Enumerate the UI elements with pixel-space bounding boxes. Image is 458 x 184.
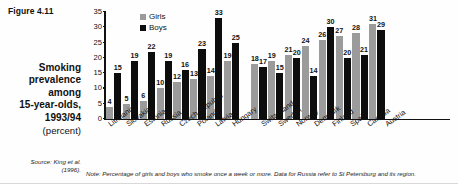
bar-value-label: 20 <box>343 49 351 56</box>
bar-value-label: 20 <box>293 49 301 56</box>
bar-value-label: 30 <box>326 18 334 25</box>
figure-units: (percent) <box>3 124 81 137</box>
bar-value-label: 24 <box>301 37 309 44</box>
figure-title-line-4: 15-year-olds, <box>19 99 81 110</box>
bar-group: 3129 <box>369 12 384 119</box>
bar-girls-finland: 26 <box>319 40 326 119</box>
bar-value-label: 15 <box>276 64 284 71</box>
figure-title-line-1: Smoking <box>39 62 81 73</box>
bar-value-label: 33 <box>215 9 223 16</box>
bar-groups: 4155196221019121613231433192518171915212… <box>106 12 458 119</box>
bar-value-label: 28 <box>352 24 360 31</box>
bar-group: 415 <box>106 12 121 119</box>
bar-value-label: 29 <box>377 21 385 28</box>
bar-boys-hungary: 25 <box>232 43 239 119</box>
figure-panel: Figure 4.11 Smoking prevalence among 15-… <box>0 0 458 184</box>
bar-group: 622 <box>140 12 155 119</box>
bar-girls-canada: 28 <box>352 33 359 119</box>
y-tick-0: 0 <box>86 115 102 123</box>
y-tick-15: 15 <box>86 69 102 77</box>
bar-boys-austria: 29 <box>377 30 384 119</box>
y-tick-30: 30 <box>86 23 102 31</box>
bar-value-label: 31 <box>369 15 377 22</box>
y-tick-10: 10 <box>86 84 102 92</box>
bar-value-label: 14 <box>310 67 318 74</box>
bar-boys-czech-republic: 16 <box>182 70 189 119</box>
figure-note: Note: Percentage of girls and boys who s… <box>86 170 454 177</box>
bar-group: 2630 <box>319 12 334 119</box>
bar-group: 2720 <box>336 12 351 119</box>
bar-group: 1915 <box>268 12 283 119</box>
bar-value-label: 23 <box>198 40 206 47</box>
bar-girls-denmark: 24 <box>302 46 309 119</box>
bar-chart: 05101520253035 Girls Boys 41551962210191… <box>86 0 458 184</box>
bar-value-label: 6 <box>141 92 145 99</box>
figure-note-text: Note: Percentage of girls and boys who s… <box>86 170 416 177</box>
figure-title-line-3: among <box>48 87 81 98</box>
bottom-divider <box>0 183 458 184</box>
bar-value-label: 19 <box>268 52 276 59</box>
bar-boys-switzerland: 17 <box>259 67 266 119</box>
bar-value-label: 19 <box>224 52 232 59</box>
bar-group: 1019 <box>157 12 172 119</box>
bar-value-label: 18 <box>251 55 259 62</box>
bar-value-label: 22 <box>147 43 155 50</box>
bar-boys-canada: 21 <box>361 55 368 119</box>
bar-value-label: 14 <box>207 67 215 74</box>
y-tick-20: 20 <box>86 54 102 62</box>
caption-column: Figure 4.11 Smoking prevalence among 15-… <box>0 0 86 184</box>
bar-value-label: 19 <box>131 52 139 59</box>
bar-group: 1216 <box>173 12 188 119</box>
figure-title-line-5: 1993/94 <box>45 112 81 123</box>
bar-value-label: 13 <box>190 70 198 77</box>
bar-value-label: 25 <box>232 34 240 41</box>
bar-girls-austria: 31 <box>369 24 376 119</box>
bar-group: 1925 <box>224 12 239 119</box>
figure-source: Source: King et al. (1996). <box>3 158 81 173</box>
bar-value-label: 19 <box>164 52 172 59</box>
bar-value-label: 17 <box>259 58 267 65</box>
bar-value-label: 10 <box>156 79 164 86</box>
figure-title: Smoking prevalence among 15-year-olds, 1… <box>3 62 81 137</box>
bar-value-label: 4 <box>108 98 112 105</box>
bar-value-label: 16 <box>181 61 189 68</box>
bar-group: 1817 <box>251 12 266 119</box>
bar-group: 2414 <box>302 12 317 119</box>
y-tick-25: 25 <box>86 39 102 47</box>
figure-source-line-1: Source: King et al. <box>30 158 81 165</box>
bar-value-label: 21 <box>285 46 293 53</box>
bar-value-label: 21 <box>360 46 368 53</box>
bar-value-label: 5 <box>124 95 128 102</box>
y-tick-35: 35 <box>86 8 102 16</box>
bar-value-label: 26 <box>318 31 326 38</box>
bar-value-label: 27 <box>335 27 343 34</box>
figure-title-line-2: prevalence <box>29 74 81 85</box>
bar-value-label: 12 <box>173 73 181 80</box>
figure-label: Figure 4.11 <box>8 6 54 16</box>
bar-group: 2821 <box>352 12 367 119</box>
bar-value-label: 15 <box>114 64 122 71</box>
figure-source-line-2: (1996). <box>61 166 81 173</box>
y-tick-5: 5 <box>86 100 102 108</box>
